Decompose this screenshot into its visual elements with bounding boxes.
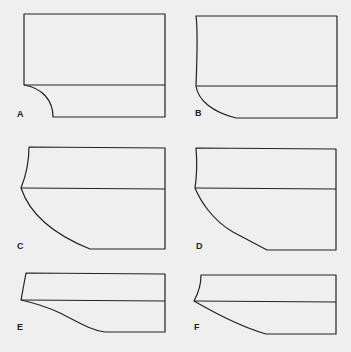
panel-c-label: C <box>17 241 24 251</box>
panel-f-outline <box>194 275 336 334</box>
panel-c-outline <box>21 147 165 249</box>
panel-a: A <box>17 14 165 119</box>
panel-c-divider <box>21 188 165 189</box>
panel-diagram: A B C D E F <box>0 0 351 352</box>
panel-a-label: A <box>17 109 24 119</box>
panel-c: C <box>17 147 165 251</box>
panel-d-divider <box>195 188 336 189</box>
panel-d: D <box>195 148 336 251</box>
panel-f-divider <box>194 301 336 302</box>
panel-b-label: B <box>195 108 202 118</box>
panel-d-outline <box>195 148 336 250</box>
panel-d-label: D <box>196 241 203 251</box>
panel-a-outline <box>24 14 165 117</box>
panel-b-outline <box>196 16 337 118</box>
panel-e: E <box>17 273 165 332</box>
panel-e-label: E <box>17 322 23 332</box>
panel-e-outline <box>21 273 165 332</box>
panel-f: F <box>194 275 336 334</box>
panel-e-divider <box>21 300 165 301</box>
panel-b: B <box>195 16 337 118</box>
panel-f-label: F <box>194 322 200 332</box>
